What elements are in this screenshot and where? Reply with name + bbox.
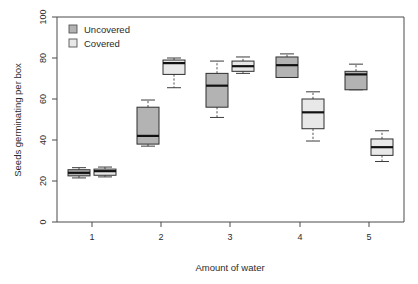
- boxplot-uncovered-5: [345, 64, 367, 90]
- boxplot-chart: 0 20 40 60 80 100 1 2 3 4 5 Seeds germin…: [0, 0, 418, 284]
- boxplot-covered-4: [302, 92, 324, 141]
- y-axis-ticks: 0 20 40 60 80 100: [38, 9, 57, 224]
- x-tick-label-2: 2: [158, 232, 163, 242]
- y-tick-label-100: 100: [38, 9, 48, 24]
- legend: Uncovered Covered: [69, 24, 130, 49]
- box-body: [206, 73, 228, 107]
- y-tick-label-0: 0: [38, 219, 48, 224]
- x-tick-label-3: 3: [227, 232, 232, 242]
- boxplot-covered-2: [163, 58, 185, 88]
- legend-label-covered: Covered: [84, 38, 120, 49]
- box-body: [302, 99, 324, 129]
- boxplot-uncovered-3: [206, 61, 228, 117]
- box-body: [137, 107, 159, 144]
- x-axis-title: Amount of water: [195, 262, 264, 273]
- boxplot-series-layer: [68, 54, 393, 178]
- boxplot-uncovered-4: [276, 54, 298, 78]
- box-body: [276, 57, 298, 78]
- y-axis-title: Seeds germinating per box: [12, 63, 23, 177]
- legend-label-uncovered: Uncovered: [84, 24, 130, 35]
- x-tick-label-4: 4: [297, 232, 302, 242]
- boxplot-covered-5: [371, 131, 393, 162]
- y-tick-label-60: 60: [38, 94, 48, 104]
- legend-swatch-covered: [69, 39, 77, 47]
- x-axis-ticks: 1 2 3 4 5: [89, 222, 371, 242]
- y-tick-label-20: 20: [38, 176, 48, 186]
- x-tick-label-5: 5: [366, 232, 371, 242]
- chart-canvas: 0 20 40 60 80 100 1 2 3 4 5 Seeds germin…: [0, 0, 418, 284]
- x-tick-label-1: 1: [89, 232, 94, 242]
- boxplot-covered-1: [94, 167, 116, 177]
- boxplot-uncovered-1: [68, 168, 90, 178]
- legend-swatch-uncovered: [69, 25, 77, 33]
- y-tick-label-80: 80: [38, 53, 48, 63]
- boxplot-uncovered-2: [137, 100, 159, 146]
- boxplot-covered-3: [232, 57, 254, 73]
- y-tick-label-40: 40: [38, 135, 48, 145]
